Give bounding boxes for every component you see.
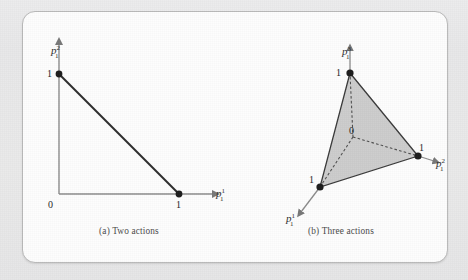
x-axis-label-sub: 1 (220, 195, 224, 203)
axis-up-label-sub: 1 (346, 53, 350, 61)
vertex-label-e3: 1 (336, 68, 341, 78)
vertex-dot-e1 (316, 183, 323, 190)
vertex-label-e2: 1 (419, 143, 424, 153)
x-tick-one: 1 (176, 200, 181, 210)
vertex-dot-e2 (56, 71, 63, 78)
page-background: p21 p11 1 1 0 (a) Two actions (0, 0, 468, 280)
vertex-dot-e1 (176, 191, 183, 198)
axis-up-label: p31 (342, 46, 355, 57)
vertex-dot-e3 (346, 69, 353, 76)
simplex-segment (59, 74, 179, 194)
caption-two-actions: (a) Two actions (23, 226, 235, 236)
axis-right-label-sub: 1 (440, 165, 444, 173)
y-tick-one: 1 (47, 69, 52, 79)
x-axis-label: p11 (216, 188, 229, 199)
y-axis-label-sub: 1 (55, 52, 59, 60)
panel-three-actions: p31 p21 p11 1 1 1 0 (b) Three actions (235, 12, 447, 262)
y-axis-label: p21 (51, 45, 64, 56)
vertex-dot-e2 (414, 152, 421, 159)
axis-front-left-arrow (301, 187, 320, 212)
simplex-3d-plot (235, 12, 447, 262)
origin-label-3d: 0 (349, 126, 354, 136)
axis-front-left-label: p11 (286, 213, 299, 224)
figure-box: p21 p11 1 1 0 (a) Two actions (22, 11, 448, 263)
panel-two-actions: p21 p11 1 1 0 (a) Two actions (23, 12, 235, 262)
vertex-label-e1: 1 (309, 175, 314, 185)
caption-three-actions: (b) Three actions (235, 226, 447, 236)
simplex-triangle-face (320, 73, 418, 187)
origin-label: 0 (48, 200, 53, 210)
axis-right-label: p21 (436, 158, 448, 169)
